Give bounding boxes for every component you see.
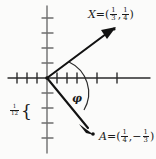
point-x-marker xyxy=(112,27,115,30)
point-a-coord-x-denominator: 4 xyxy=(121,137,127,144)
point-a-name: A xyxy=(99,130,107,143)
scale-numerator: 1 xyxy=(12,104,18,110)
point-x-open-paren: ( xyxy=(105,8,109,21)
angle-phi-label: φ xyxy=(72,93,82,104)
point-a-coord-x-fraction: 14 xyxy=(121,129,127,145)
point-x-coord-x-numerator: 1 xyxy=(110,7,116,14)
point-a-coord-y-denominator: 3 xyxy=(143,137,149,144)
point-x-coord-x-denominator: 3 xyxy=(110,15,116,22)
point-x-coord-y-denominator: 4 xyxy=(122,15,128,22)
point-x-equals: = xyxy=(96,8,105,21)
scale-label-inner: 112{ xyxy=(9,104,31,117)
scale-denominator: 12 xyxy=(10,111,19,117)
point-x-comma: , xyxy=(118,8,122,21)
point-x-coord-x-fraction: 13 xyxy=(110,7,116,23)
point-a-close-paren: ) xyxy=(150,130,154,143)
scale-label: 112{ xyxy=(9,101,31,117)
point-a-equals: = xyxy=(107,130,116,143)
point-x-name: X xyxy=(88,8,96,21)
point-a-open-paren: ( xyxy=(116,130,120,143)
point-x-label: X=(13,14) xyxy=(88,7,134,23)
point-x-coord-y-numerator: 1 xyxy=(122,7,128,14)
point-a-coord-y-numerator: 1 xyxy=(143,129,149,136)
point-a-coord-x-numerator: 1 xyxy=(121,129,127,136)
point-x-coord-y-fraction: 14 xyxy=(122,7,128,23)
scale-fraction: 112 xyxy=(10,104,19,117)
origin-marker xyxy=(45,76,49,80)
vector-diagram-figure: X=(13,14) A=(14,−13) 112{ φ xyxy=(0,0,156,159)
vector-x-shaft xyxy=(47,31,110,78)
point-a-label: A=(14,−13) xyxy=(99,129,154,145)
point-x-close-paren: ) xyxy=(130,8,134,21)
scale-brace: { xyxy=(21,107,32,116)
point-a-marker xyxy=(91,132,95,136)
point-a-coord-y-sign: − xyxy=(132,130,141,143)
point-a-coord-y-fraction: 13 xyxy=(143,129,149,145)
